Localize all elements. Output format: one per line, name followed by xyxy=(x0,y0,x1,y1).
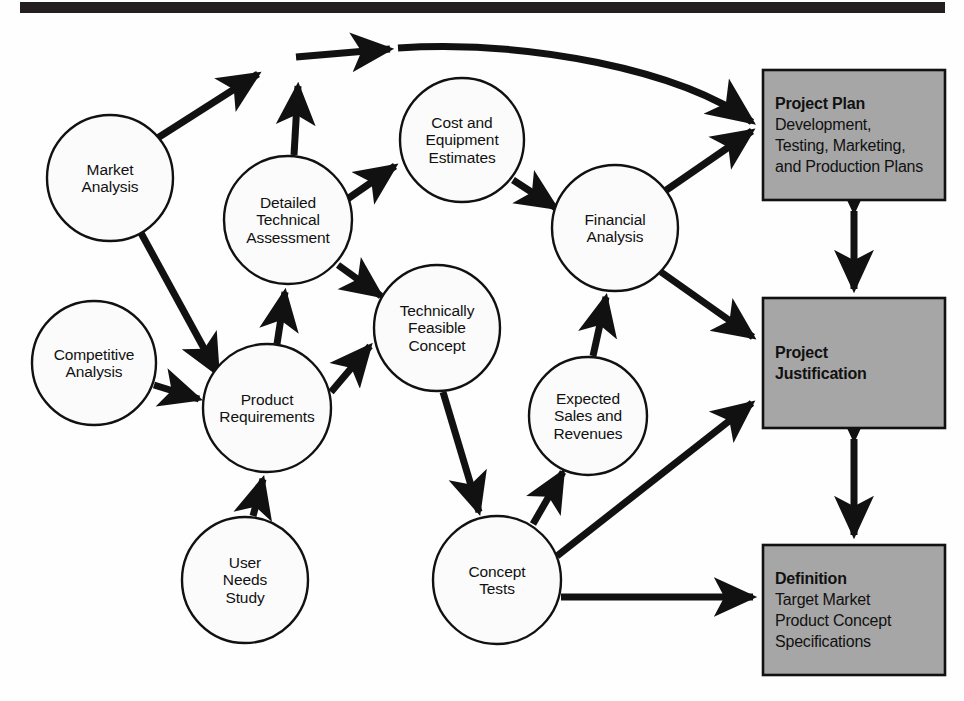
node-circle-financial-analysis[interactable] xyxy=(552,165,678,291)
node-circle-market-analysis[interactable] xyxy=(47,115,173,241)
node-circle-detailed-technical-assessment[interactable] xyxy=(224,156,352,284)
node-circle-cost-equipment-estimates[interactable] xyxy=(400,78,524,202)
edge-technically-feasible-concept-to-concept-tests xyxy=(443,392,479,512)
box-label-project-plan: Project Plan Development, Testing, Marke… xyxy=(763,70,945,200)
box-title-line: Project xyxy=(775,342,867,363)
box-label-project-justification: Project Justification xyxy=(763,298,945,428)
edge-expected-sales-revenues-to-financial-analysis xyxy=(593,297,606,356)
edge-user-needs-study-to-product-requirements xyxy=(253,479,263,516)
edge-product-requirements-to-technically-feasible-concept xyxy=(331,346,370,392)
node-circle-user-needs-study[interactable] xyxy=(182,517,308,643)
box-label-definition: Definition Target Market Product Concept… xyxy=(763,545,945,675)
box-body-line: Target Market xyxy=(775,589,891,610)
edge-financial-analysis-to-project-justification xyxy=(661,272,753,337)
edge-product-requirements-to-detailed-technical-assessment xyxy=(277,292,285,344)
edge-detailed-technical-assessment-to-junction xyxy=(294,86,298,155)
box-title-line: Justification xyxy=(775,363,867,384)
edge-detailed-technical-assessment-to-cost-equipment-estimates xyxy=(346,166,395,200)
edge-junction-horizontal xyxy=(296,49,390,57)
edge-market-analysis-to-junction xyxy=(156,74,258,139)
edge-cost-equipment-estimates-to-financial-analysis xyxy=(513,180,556,208)
node-circle-concept-tests[interactable] xyxy=(433,516,561,644)
edge-concept-tests-to-expected-sales-revenues xyxy=(533,472,563,524)
box-body-line: Testing, Marketing, xyxy=(775,135,923,156)
box-title: Project Plan xyxy=(775,93,923,114)
box-body-line: Development, xyxy=(775,114,923,135)
node-circle-technically-feasible-concept[interactable] xyxy=(374,265,500,391)
node-circle-expected-sales-revenues[interactable] xyxy=(529,357,647,475)
box-body-line: and Production Plans xyxy=(775,156,923,177)
diagram-canvas: Market Analysis Competitive Analysis Pro… xyxy=(0,0,964,701)
edge-financial-analysis-to-project-plan xyxy=(665,131,752,191)
box-title: Definition xyxy=(775,568,891,589)
node-circle-product-requirements[interactable] xyxy=(203,344,331,472)
edge-detailed-technical-assessment-to-technically-feasible-concept xyxy=(338,265,381,296)
edge-competitive-analysis-to-product-requirements xyxy=(154,385,199,399)
box-body-line: Specifications xyxy=(775,631,891,652)
box-body-line: Product Concept xyxy=(775,610,891,631)
node-circle-competitive-analysis[interactable] xyxy=(32,301,156,425)
